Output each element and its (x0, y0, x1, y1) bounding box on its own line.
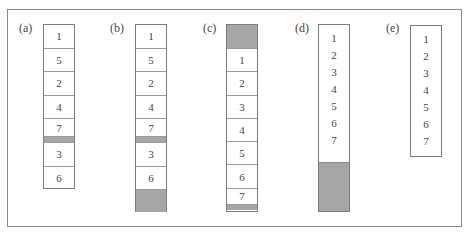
free-space-block (227, 25, 257, 49)
panel-label-e: (e) (386, 21, 399, 35)
item: 3 (331, 64, 337, 81)
compacted-items: 1 2 3 4 5 6 7 (319, 25, 349, 162)
cell: 6 (136, 167, 166, 191)
item: 4 (423, 82, 429, 99)
cell: 3 (44, 143, 74, 167)
panel-label-d: (d) (295, 21, 309, 35)
item: 7 (423, 133, 429, 150)
free-space-block (136, 190, 166, 212)
item: 4 (331, 81, 337, 98)
compacted-items: 1 2 3 4 5 6 7 (411, 26, 441, 150)
memory-column-b: 1 5 2 4 7 3 6 (135, 24, 167, 212)
item: 3 (423, 65, 429, 82)
memory-column-c: 1 2 3 4 5 6 7 (226, 24, 258, 212)
cell: 6 (44, 167, 74, 191)
memory-column-a: 1 5 2 4 7 3 6 (43, 24, 75, 189)
cell: 5 (227, 142, 257, 165)
cell: 4 (44, 96, 74, 120)
cell: 3 (227, 96, 257, 119)
free-space-block (319, 162, 349, 211)
item: 1 (331, 30, 337, 47)
item: 6 (423, 116, 429, 133)
cell: 2 (227, 72, 257, 95)
cell: 5 (136, 49, 166, 73)
cell: 6 (227, 165, 257, 188)
fragment-gap (227, 205, 257, 210)
item: 5 (331, 98, 337, 115)
cell: 7 (44, 119, 74, 137)
cell: 4 (227, 119, 257, 142)
item: 2 (331, 47, 337, 64)
cell: 4 (136, 96, 166, 120)
item: 7 (331, 132, 337, 149)
item: 6 (331, 115, 337, 132)
cell: 2 (44, 72, 74, 96)
cell: 7 (136, 119, 166, 137)
panel-label-b: (b) (110, 21, 124, 35)
cell: 7 (227, 189, 257, 205)
item: 2 (423, 48, 429, 65)
memory-column-d: 1 2 3 4 5 6 7 (318, 24, 350, 212)
cell: 5 (44, 49, 74, 73)
item: 1 (423, 31, 429, 48)
cell: 3 (136, 143, 166, 167)
cell: 1 (136, 25, 166, 49)
panel-label-a: (a) (19, 21, 32, 35)
cell: 1 (44, 25, 74, 49)
item: 5 (423, 99, 429, 116)
memory-column-e: 1 2 3 4 5 6 7 (410, 25, 442, 157)
panel-label-c: (c) (203, 21, 216, 35)
cell: 2 (136, 72, 166, 96)
cell: 1 (227, 49, 257, 72)
